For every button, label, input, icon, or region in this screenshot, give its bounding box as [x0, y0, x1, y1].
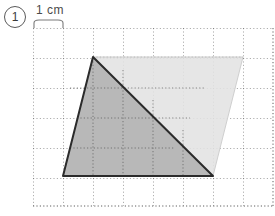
worksheet-figure-page: 1 1 cm — [0, 0, 275, 216]
geometry-figure — [0, 0, 275, 216]
